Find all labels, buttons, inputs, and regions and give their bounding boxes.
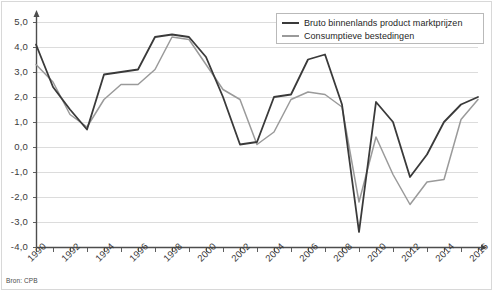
y-axis-tick-label: 0,0 xyxy=(0,141,28,152)
legend-item-gdp: Bruto binnenlands product marktprijzen xyxy=(282,17,478,29)
chart-figure: 5,04,03,02,01,00,0-1,0-2,0-3,0-4,0 19901… xyxy=(0,0,493,291)
x-axis-ticks-group xyxy=(33,23,479,253)
y-axis-arrow xyxy=(34,10,40,17)
chart-legend: Bruto binnenlands product marktprijzen C… xyxy=(276,13,484,44)
y-axis-tick-label: 1,0 xyxy=(0,116,28,127)
y-axis-tick-label: -4,0 xyxy=(0,241,28,252)
series-line-consumption xyxy=(36,37,478,205)
y-axis-tick-label: -2,0 xyxy=(0,191,28,202)
legend-label-consumption: Consumptieve bestedingen xyxy=(304,31,414,41)
legend-label-gdp: Bruto binnenlands product marktprijzen xyxy=(304,18,463,28)
axes-group xyxy=(34,10,488,251)
legend-swatch-consumption xyxy=(282,35,299,37)
data-series-group xyxy=(36,35,478,233)
gridlines-group xyxy=(36,23,478,223)
source-note: Bron: CPB xyxy=(6,277,38,284)
y-axis-tick-label: -3,0 xyxy=(0,216,28,227)
y-axis-tick-label: 2,0 xyxy=(0,91,28,102)
y-axis-tick-label: 4,0 xyxy=(0,41,28,52)
legend-item-consumption: Consumptieve bestedingen xyxy=(282,30,478,42)
y-axis-tick-label: -1,0 xyxy=(0,166,28,177)
y-axis-tick-label: 3,0 xyxy=(0,66,28,77)
legend-swatch-gdp xyxy=(282,22,299,24)
y-axis-tick-label: 5,0 xyxy=(0,16,28,27)
